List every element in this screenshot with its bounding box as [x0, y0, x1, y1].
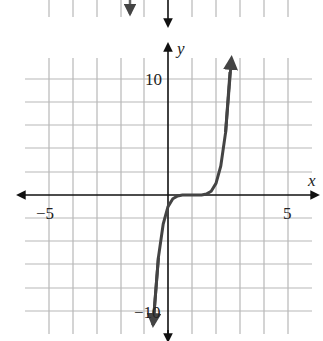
x-tick-neg5: −5: [36, 204, 54, 223]
graph: x y −5 5 10 −10: [0, 0, 323, 341]
x-tick-5: 5: [283, 204, 292, 223]
x-axis-label: x: [307, 171, 316, 190]
y-axis-label: y: [175, 39, 185, 58]
previous-graph-remnant: [49, 0, 288, 26]
y-tick-10: 10: [145, 70, 162, 89]
y-tick-neg10: −10: [134, 303, 161, 322]
